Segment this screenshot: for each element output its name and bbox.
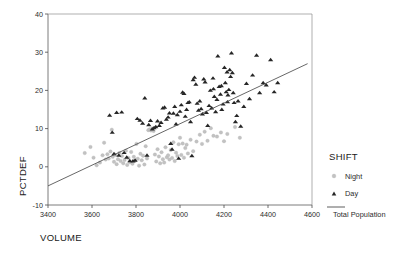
data-point-night [174, 151, 178, 155]
data-point-night [191, 149, 195, 153]
data-point-night [200, 142, 204, 146]
data-point-day [183, 114, 188, 117]
data-point-day [272, 90, 277, 93]
data-point-night [136, 157, 140, 161]
data-point-night [83, 151, 87, 155]
data-point-day [213, 110, 218, 113]
y-tick-label: 10 [35, 124, 43, 133]
data-point-night [115, 162, 119, 166]
data-point-day [230, 71, 235, 74]
data-point-day [257, 91, 262, 94]
data-point-day [140, 121, 145, 124]
data-point-night [195, 140, 199, 144]
data-point-day [202, 80, 207, 83]
data-point-day [189, 154, 194, 157]
data-point-night [215, 135, 219, 139]
y-axis-title: PCTDEF [17, 156, 28, 196]
data-point-day [214, 98, 219, 101]
data-point-night [123, 158, 127, 162]
data-point-day [210, 76, 215, 79]
y-tick-label: 0 [39, 162, 43, 171]
x-tick-label: 3800 [128, 210, 144, 219]
data-point-day [199, 107, 204, 110]
data-point-day [225, 93, 230, 96]
regression-line [48, 64, 308, 186]
data-point-night [101, 154, 105, 158]
data-point-day [177, 109, 182, 112]
data-point-night [154, 160, 158, 164]
data-point-night [203, 130, 207, 134]
data-point-day [229, 51, 234, 54]
data-point-day [223, 81, 228, 84]
scatter-plot-figure: -100102030403400360038004000420044004600… [0, 0, 409, 256]
legend-marker-night [332, 174, 336, 178]
data-point-day [114, 111, 119, 114]
y-tick-label: 40 [35, 10, 43, 19]
legend: SHIFT Night Day Total Population [327, 151, 386, 219]
x-axis-title: VOLUME [40, 232, 82, 243]
data-point-day [144, 153, 149, 156]
x-tick-label: 4600 [304, 210, 320, 219]
data-point-day [241, 104, 246, 107]
legend-marker-day [332, 191, 337, 195]
data-point-night [137, 164, 141, 168]
data-point-day [205, 124, 210, 127]
legend-label-night: Night [345, 172, 362, 181]
x-tick-label: 4000 [172, 210, 188, 219]
data-point-day [244, 82, 249, 85]
data-point-day [179, 103, 184, 106]
data-point-night [153, 153, 157, 157]
data-point-day [142, 96, 147, 99]
x-tick-label: 3600 [84, 210, 100, 219]
data-point-night [189, 138, 193, 142]
data-point-day [228, 75, 233, 78]
data-point-night [158, 162, 162, 166]
data-point-day [184, 108, 189, 111]
data-point-day [268, 58, 273, 61]
data-point-night [222, 139, 226, 143]
data-point-day [167, 111, 172, 114]
data-point-day [146, 123, 151, 126]
data-point-day [235, 99, 240, 102]
x-tick-label: 3400 [40, 210, 56, 219]
data-point-night [129, 150, 133, 154]
data-point-night [160, 151, 164, 155]
data-point-night [131, 162, 135, 166]
data-point-day [226, 88, 231, 91]
data-point-day [188, 120, 193, 123]
data-point-night [145, 157, 149, 161]
data-point-night [109, 150, 113, 154]
data-point-day [231, 91, 236, 94]
data-point-night [157, 155, 161, 159]
data-point-night [226, 132, 230, 136]
data-point-day [107, 113, 112, 116]
data-point-night [181, 142, 185, 146]
plot-canvas: -100102030403400360038004000420044004600… [0, 0, 409, 256]
data-point-day [211, 87, 216, 90]
data-point-night [206, 139, 210, 143]
data-point-night [89, 145, 93, 149]
data-point-night [238, 136, 242, 140]
data-point-day [254, 53, 259, 56]
data-point-day [148, 119, 153, 122]
data-point-night [121, 162, 125, 166]
x-tick-label: 4200 [216, 210, 232, 219]
data-point-day [238, 124, 243, 127]
data-point-night [186, 152, 190, 156]
axis-ticks [45, 14, 312, 208]
data-point-day [119, 110, 124, 113]
data-point-night [177, 143, 181, 147]
total-population-fit-line [48, 64, 308, 186]
data-point-night [110, 128, 114, 132]
data-point-night [144, 144, 148, 148]
data-point-day [192, 75, 197, 78]
data-point-night [162, 161, 166, 165]
data-point-day [222, 65, 227, 68]
data-point-night [185, 143, 189, 147]
data-point-day [212, 95, 217, 98]
data-point-day [193, 82, 198, 85]
data-point-night [178, 136, 182, 140]
data-point-day [233, 120, 238, 123]
data-point-night [170, 156, 174, 160]
data-point-night [219, 131, 223, 135]
